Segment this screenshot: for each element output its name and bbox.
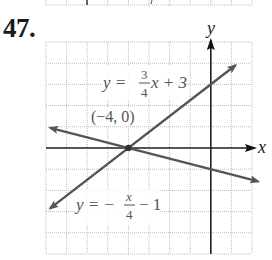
eq1-denominator: 4 (141, 85, 148, 100)
point-label: (−4, 0) (91, 108, 135, 126)
eq2-numerator: x (125, 189, 132, 204)
coordinate-plane: y x y = 3 4 x + 3 (−4, 0) y = − x 4 − 1 (0, 0, 272, 260)
eq1-numerator: 3 (141, 67, 148, 82)
intersection-point (125, 145, 131, 151)
eq1-lhs: y = (101, 73, 126, 92)
eq2-lhs: y = − (74, 195, 115, 214)
line-series-2 (50, 128, 258, 182)
previous-problem-grid-fragment (46, 0, 252, 5)
equation-label-line1: y = 3 4 x + 3 (101, 66, 187, 100)
x-axis-label: x (257, 137, 266, 157)
eq2-rest: − 1 (139, 195, 161, 214)
eq1-rest: x + 3 (150, 73, 187, 92)
intersection-label: (−4, 0) (90, 107, 142, 126)
y-axis-label: y (205, 18, 215, 38)
eq2-denominator: 4 (126, 207, 133, 222)
equation-label-line2: y = − x 4 − 1 (74, 189, 161, 226)
